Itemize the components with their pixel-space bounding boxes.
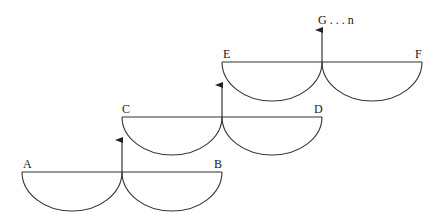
stage-ef-right-arc (322, 62, 422, 101)
stage-ef-left-arc (222, 62, 322, 101)
stage-ab-right-arc (122, 172, 222, 211)
staged-arc-diagram (0, 0, 444, 223)
label-g-to-n: G . . . n (318, 14, 354, 26)
stage-cd-right-arc (222, 117, 322, 155)
stage-ab-left-arc (22, 172, 122, 211)
label-e: E (223, 48, 230, 60)
label-c: C (122, 103, 130, 115)
stage-ab (22, 140, 222, 211)
stage-cd (122, 85, 322, 155)
label-f: F (415, 48, 422, 60)
label-b: B (214, 158, 222, 170)
label-a: A (23, 158, 32, 170)
stage-ef (222, 30, 422, 101)
stage-cd-left-arc (122, 117, 222, 155)
label-d: D (314, 103, 323, 115)
